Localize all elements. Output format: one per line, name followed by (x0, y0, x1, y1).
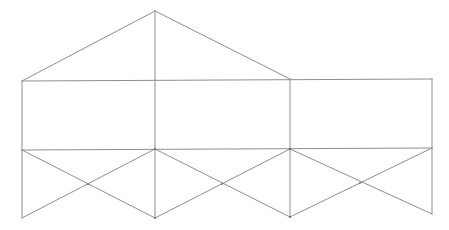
figure-canvas: Line wireframe drawing of a gabled build… (0, 0, 449, 230)
lower-zigzag-group (22, 148, 432, 218)
vertex-dot-mid-right-eave (289, 148, 291, 150)
roof-group (22, 11, 290, 81)
top-horizontal-line (22, 79, 432, 81)
roof-right-slope-line (155, 11, 290, 79)
roof-left-slope-line (22, 11, 155, 81)
vertex-dot-cross-1 (87, 183, 89, 185)
middle-horizontal-line (22, 148, 432, 150)
vertex-dot-cross-3 (359, 182, 361, 184)
vertex-dot-bottom-right-pin (289, 216, 291, 218)
wireframe-drawing: Line wireframe drawing of a gabled build… (0, 0, 449, 230)
upper-band-group (22, 79, 432, 150)
vertex-dot-bottom-center (154, 217, 156, 219)
vertex-dot-mid-center (154, 148, 156, 150)
vertex-dot-cross-2 (221, 183, 223, 185)
